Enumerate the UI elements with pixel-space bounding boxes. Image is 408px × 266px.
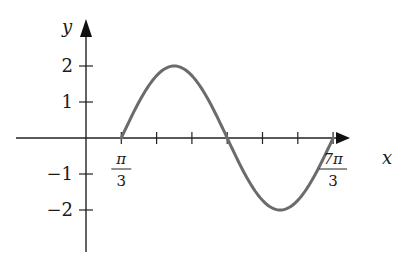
sine-graph: 21−1−2π37π3 y x (0, 0, 408, 266)
y-axis-label: y (61, 16, 73, 37)
x-axis-arrow-icon (336, 132, 350, 144)
y-tick-label: 2 (62, 55, 73, 76)
y-axis-arrow-icon (80, 19, 92, 37)
x-tick-label-denominator: 3 (117, 172, 127, 190)
y-tick-label: 1 (62, 91, 73, 112)
y-tick-label: −1 (46, 163, 73, 184)
x-tick-label-numerator: 7π (323, 150, 344, 168)
x-tick-label-denominator: 3 (328, 172, 338, 190)
x-axis-label: x (382, 147, 392, 168)
y-tick-label: −2 (46, 199, 73, 220)
x-tick-label-numerator: π (115, 150, 127, 168)
